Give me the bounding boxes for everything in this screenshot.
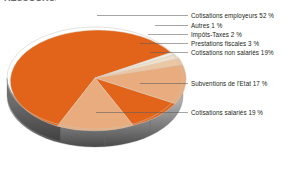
label-prestations-fiscales: Prestations fiscales 3 %: [191, 40, 259, 47]
label-autres: Autres 1 %: [191, 22, 222, 29]
label-cotisations-non-salaries: Cotisations non salariés 19%: [191, 49, 274, 56]
label-cotisations-salaries: Cotisations salariés 19 %: [191, 109, 263, 116]
chart-labels: Cotisations employeurs 52 % Autres 1 % I…: [0, 0, 285, 172]
label-impots-taxes: Impôts-Taxes 2 %: [191, 31, 242, 38]
label-cotisations-employeurs: Cotisations employeurs 52 %: [191, 12, 274, 19]
label-subventions-etat: Subventions de l'Etat 17 %: [191, 80, 267, 87]
pie-chart-figure: RESSOURCES: [0, 0, 285, 172]
